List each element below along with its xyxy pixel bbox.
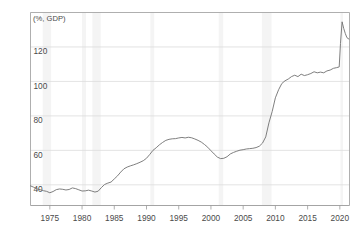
y-tick-label: 100 xyxy=(34,81,48,91)
recession-band xyxy=(43,13,51,206)
x-tick-label: 2000 xyxy=(202,213,221,223)
recession-band xyxy=(219,13,224,206)
x-tick-label: 2020 xyxy=(331,213,350,223)
recession-band xyxy=(150,13,154,206)
x-tick-label: 2010 xyxy=(266,213,285,223)
y-tick-label: 60 xyxy=(34,150,44,160)
y-tick-label: 120 xyxy=(34,46,48,56)
x-tick-label: 2015 xyxy=(298,213,317,223)
chart-background xyxy=(0,0,361,243)
line-chart: 406080100120 197519801985199019952000200… xyxy=(0,0,361,243)
x-tick-label: 1985 xyxy=(105,213,124,223)
x-tick-label: 1975 xyxy=(41,213,60,223)
recession-band xyxy=(262,13,272,206)
x-tick-label: 1995 xyxy=(169,213,188,223)
y-axis-unit-label: (%, GDP) xyxy=(33,14,66,23)
recession-band xyxy=(92,13,100,206)
chart-container: 406080100120 197519801985199019952000200… xyxy=(0,0,361,243)
y-tick-label: 80 xyxy=(34,115,44,125)
x-tick-label: 1980 xyxy=(73,213,92,223)
x-tick-label: 2005 xyxy=(234,213,253,223)
recession-band xyxy=(82,13,86,206)
x-tick-label: 1990 xyxy=(137,213,156,223)
